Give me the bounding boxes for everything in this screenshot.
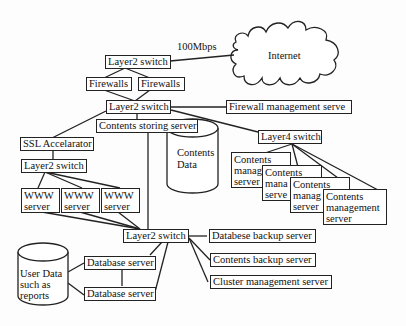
- firewall-right: Firewalls: [138, 77, 185, 91]
- contents-management-server-4: Contentsmanagementserver: [323, 189, 387, 225]
- database-backup-server: Databese backup server: [209, 229, 316, 243]
- firewall-left: Firewalls: [86, 77, 132, 91]
- www-server-2: WWWserver: [61, 188, 100, 213]
- cluster-management-server: Cluster management server: [210, 275, 332, 289]
- contents-storing-server: Contents storing server: [96, 119, 198, 133]
- backend-layer2-switch: Layer2 switch: [123, 229, 189, 243]
- network-diagram: Internet 100Mbps Layer2 switch Firewalls…: [0, 0, 406, 326]
- user-data-label: User Data such as reports: [20, 268, 62, 301]
- ssl-accelerator: SSL Accelarator: [20, 137, 94, 151]
- contents-data-label: Contents Data: [177, 147, 214, 171]
- database-server-1: Database server: [84, 256, 156, 270]
- web-layer2-switch: Layer2 switch: [21, 159, 87, 173]
- database-server-2: Database server: [84, 287, 156, 301]
- www-server-3: WWWserver: [101, 188, 140, 213]
- top-layer2-switch: Layer2 switch: [105, 55, 171, 69]
- link-speed-label: 100Mbps: [177, 41, 217, 53]
- layer4-switch: Layer4 switch: [258, 130, 322, 144]
- internet-label: Internet: [268, 50, 301, 62]
- core-layer2-switch: Layer2 switch: [106, 100, 171, 114]
- firewall-management-server: Firewall management serve: [226, 100, 352, 114]
- contents-backup-server: Contents backup server: [210, 253, 316, 267]
- www-server-1: WWWserver: [21, 188, 60, 213]
